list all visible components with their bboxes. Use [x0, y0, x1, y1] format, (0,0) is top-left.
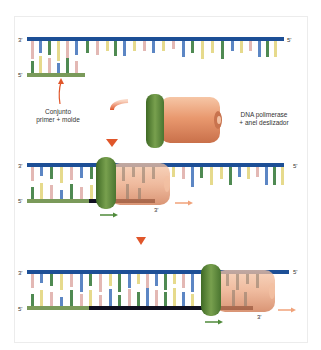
primer-strand [27, 73, 85, 77]
step-arrow-1 [106, 96, 128, 147]
five-prime-label: 5' [293, 163, 297, 169]
sliding-clamp [96, 157, 116, 209]
polymerase-label-line2: + anel deslizador [239, 119, 289, 126]
three-prime-label: 3' [257, 314, 261, 320]
five-prime-label: 5' [18, 306, 22, 312]
three-prime-label: 3' [18, 37, 22, 43]
five-prime-label: 5' [293, 269, 297, 275]
direction-arrow-clamp [205, 320, 223, 325]
complementary-bases [31, 288, 194, 306]
five-prime-label: 5' [18, 198, 22, 204]
direction-arrow-clamp [100, 213, 118, 218]
three-prime-label: 3' [18, 270, 22, 276]
primer-template-label-line1: Conjunto [45, 108, 71, 116]
arrowhead-icon [58, 78, 64, 84]
sliding-clamp [201, 264, 221, 316]
sliding-clamp [146, 94, 164, 148]
five-prime-label: 5' [287, 37, 291, 43]
primer-strand [27, 306, 89, 310]
five-prime-label: 5' [18, 72, 22, 78]
dna-replication-diagram: 3' 5' [0, 0, 321, 350]
three-prime-label: 3' [18, 163, 22, 169]
direction-arrow-polymerase [175, 201, 193, 206]
polymerase-clamp-complex: DNA polimerase + anel deslizador [146, 94, 289, 148]
template-strand [27, 37, 284, 41]
panel-3: 3' 5' [18, 264, 297, 325]
three-prime-label: 3' [154, 207, 158, 213]
dna-polymerase [160, 97, 220, 143]
primer-template-label-line2: primer + molde [36, 116, 80, 124]
primer-bases [31, 183, 93, 199]
pointer-arrow [59, 82, 61, 104]
direction-arrow-polymerase [278, 308, 296, 313]
primer-bases [31, 56, 78, 73]
primer-strand [27, 199, 89, 203]
step-arrow-2 [136, 228, 146, 245]
panel-2: 3' 5' [18, 157, 297, 218]
template-bases [31, 274, 194, 292]
polymerase-label-line1: DNA polimerase [241, 111, 288, 119]
